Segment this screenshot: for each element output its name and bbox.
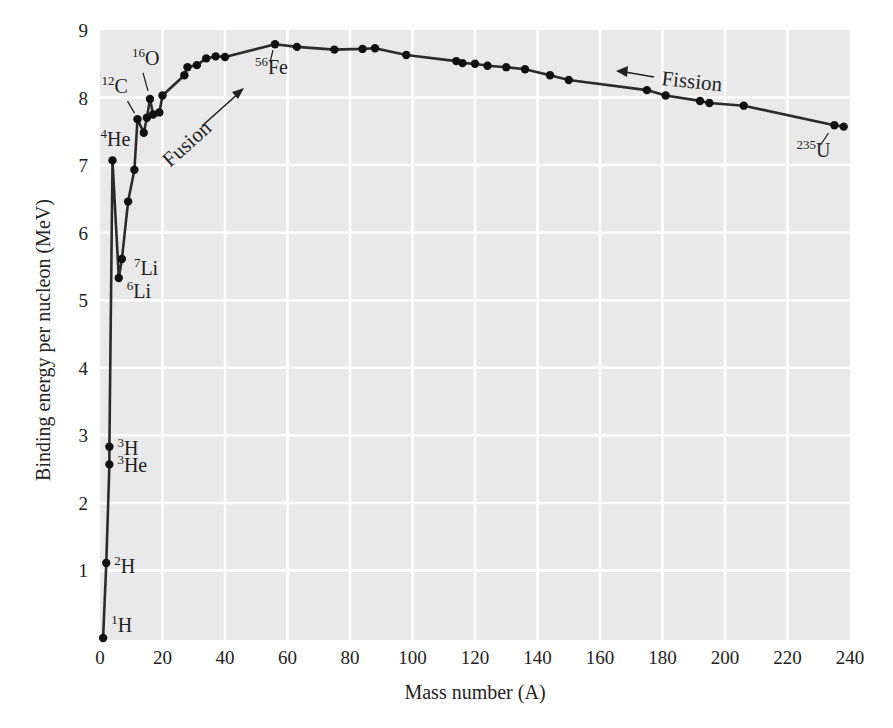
data-point-marker <box>118 255 126 263</box>
y-axis-ticks: 123456789 <box>79 20 89 581</box>
y-axis-title: Binding energy per nucleon (MeV) <box>32 199 55 481</box>
x-tick-label: 120 <box>461 647 490 668</box>
x-tick-label: 200 <box>711 647 740 668</box>
x-tick-label: 220 <box>773 647 802 668</box>
x-axis-ticks: 020406080100120140160180200220240 <box>95 647 864 668</box>
data-point-marker <box>830 121 838 129</box>
data-point-marker <box>458 59 466 67</box>
x-tick-label: 20 <box>153 647 172 668</box>
data-point-marker <box>402 51 410 59</box>
data-point-marker <box>502 63 510 71</box>
data-point-marker <box>146 95 154 103</box>
data-point-marker <box>565 76 573 84</box>
data-point-marker <box>330 45 338 53</box>
x-tick-label: 240 <box>836 647 865 668</box>
y-tick-label: 8 <box>79 88 89 109</box>
y-tick-label: 4 <box>79 358 89 379</box>
data-point-marker <box>483 62 491 70</box>
data-point-marker <box>130 166 138 174</box>
data-point-marker <box>183 63 191 71</box>
data-point-marker <box>105 443 113 451</box>
data-point-marker <box>696 97 704 105</box>
x-tick-label: 180 <box>648 647 677 668</box>
data-point-marker <box>521 65 529 73</box>
x-tick-label: 140 <box>523 647 552 668</box>
y-tick-label: 5 <box>79 290 89 311</box>
data-point-marker <box>358 45 366 53</box>
data-point-marker <box>271 40 279 48</box>
x-tick-label: 60 <box>278 647 297 668</box>
data-point-marker <box>211 52 219 60</box>
data-point-marker <box>643 86 651 94</box>
y-tick-label: 6 <box>79 223 89 244</box>
data-point-marker <box>105 460 113 468</box>
y-tick-label: 7 <box>79 155 89 176</box>
x-tick-label: 40 <box>216 647 235 668</box>
data-point-marker <box>99 634 107 642</box>
x-axis-title: Mass number (A) <box>404 681 545 704</box>
data-point-marker <box>102 559 110 567</box>
y-tick-label: 2 <box>79 493 89 514</box>
data-point-marker <box>108 156 116 164</box>
data-point-marker <box>371 44 379 52</box>
data-point-marker <box>293 43 301 51</box>
binding-energy-chart: 123456789 020406080100120140160180200220… <box>0 0 893 728</box>
x-tick-label: 160 <box>586 647 615 668</box>
data-point-marker <box>546 71 554 79</box>
data-point-marker <box>180 71 188 79</box>
x-tick-label: 80 <box>341 647 360 668</box>
data-point-marker <box>705 99 713 107</box>
y-tick-label: 3 <box>79 425 89 446</box>
data-point-marker <box>840 122 848 130</box>
data-point-marker <box>158 91 166 99</box>
y-tick-label: 1 <box>79 560 89 581</box>
data-point-marker <box>193 61 201 69</box>
y-tick-label: 9 <box>79 20 89 41</box>
x-tick-label: 100 <box>398 647 427 668</box>
data-point-marker <box>221 53 229 61</box>
x-tick-label: 0 <box>95 647 105 668</box>
data-point-marker <box>115 274 123 282</box>
data-point-marker <box>155 108 163 116</box>
data-point-marker <box>740 101 748 109</box>
data-point-marker <box>661 91 669 99</box>
data-point-marker <box>124 197 132 205</box>
data-point-marker <box>140 128 148 136</box>
data-point-marker <box>133 115 141 123</box>
data-point-marker <box>471 60 479 68</box>
data-point-marker <box>202 54 210 62</box>
